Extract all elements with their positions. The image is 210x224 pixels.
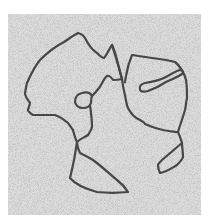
dna-micrograph <box>0 0 210 224</box>
